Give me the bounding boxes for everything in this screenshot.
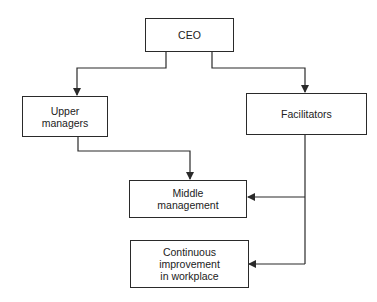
edge-ceo-facilitators bbox=[212, 51, 305, 92]
node-facilitators-label: Facilitators bbox=[281, 108, 332, 120]
edge-upper-middle bbox=[78, 136, 190, 179]
node-facilitators: Facilitators bbox=[246, 93, 367, 135]
node-ceo: CEO bbox=[145, 18, 234, 52]
node-middle-management-label: Middle management bbox=[157, 187, 218, 211]
node-middle-management: Middle management bbox=[129, 180, 247, 218]
node-upper-managers-label: Upper managers bbox=[42, 105, 89, 129]
node-continuous-improvement: Continuous improvement in workplace bbox=[130, 240, 249, 288]
edge-ceo-upper bbox=[77, 51, 166, 95]
node-upper-managers: Upper managers bbox=[22, 96, 108, 137]
node-continuous-improvement-label: Continuous improvement in workplace bbox=[159, 246, 220, 282]
node-ceo-label: CEO bbox=[178, 29, 201, 41]
